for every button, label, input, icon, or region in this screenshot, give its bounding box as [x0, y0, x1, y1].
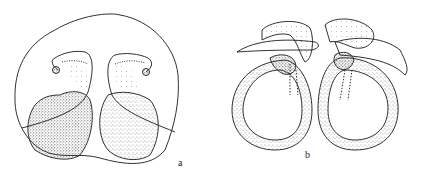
- panel-a-right-lobe: [100, 92, 159, 159]
- panel-label-a: a: [178, 157, 182, 168]
- panel-b-left-ring: [232, 60, 312, 150]
- panel-b-right-ring: [318, 58, 398, 150]
- panel-b-drawing: [232, 19, 407, 150]
- panel-label-b: b: [305, 149, 310, 160]
- figure-illustration: [0, 0, 423, 181]
- panel-a-left-lobe: [28, 92, 92, 159]
- panel-a-drawing: [15, 14, 178, 164]
